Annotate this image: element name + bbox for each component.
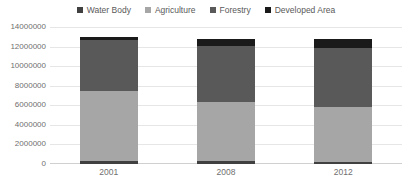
y-axis-tick-label: 4000000 bbox=[15, 121, 46, 129]
legend-swatch-icon bbox=[77, 7, 83, 13]
legend-item[interactable]: Agriculture bbox=[145, 6, 196, 15]
legend-item-label: Water Body bbox=[87, 6, 131, 15]
y-axis-tick-label: 0 bbox=[42, 160, 46, 168]
x-axis-tick-label: 2001 bbox=[99, 168, 118, 177]
bar-stack bbox=[80, 37, 138, 164]
legend-item-label: Developed Area bbox=[275, 6, 336, 15]
x-axis-labels: 200120082012 bbox=[50, 166, 402, 182]
y-axis-tick-label: 2000000 bbox=[15, 140, 46, 148]
x-axis-tick-label: 2012 bbox=[334, 168, 353, 177]
y-axis-tick-label: 14000000 bbox=[10, 23, 46, 31]
bar-segment[interactable] bbox=[80, 40, 138, 91]
y-axis-tick-label: 10000000 bbox=[10, 62, 46, 70]
bar-segment[interactable] bbox=[314, 107, 372, 162]
legend-swatch-icon bbox=[145, 7, 151, 13]
stacked-bar-chart: Water BodyAgricultureForestryDeveloped A… bbox=[0, 0, 412, 189]
bar-segment[interactable] bbox=[314, 48, 372, 107]
y-axis-labels: 1400000012000000100000008000000600000040… bbox=[0, 27, 46, 164]
bar-stack bbox=[314, 39, 372, 164]
bar-segment[interactable] bbox=[314, 162, 372, 164]
legend-swatch-icon bbox=[210, 7, 216, 13]
bar-segment[interactable] bbox=[197, 102, 255, 161]
bar-group[interactable] bbox=[80, 27, 138, 164]
bar-segment[interactable] bbox=[80, 161, 138, 164]
legend-item-label: Agriculture bbox=[155, 6, 196, 15]
x-axis-tick-label: 2008 bbox=[217, 168, 236, 177]
y-axis-tick-label: 12000000 bbox=[10, 43, 46, 51]
plot-area bbox=[50, 27, 402, 164]
bar-segment[interactable] bbox=[80, 91, 138, 161]
bar-segment[interactable] bbox=[314, 39, 372, 48]
bar-group[interactable] bbox=[314, 27, 372, 164]
legend-item-label: Forestry bbox=[220, 6, 251, 15]
bar-segment[interactable] bbox=[197, 39, 255, 46]
y-axis-tick-label: 6000000 bbox=[15, 101, 46, 109]
legend-item[interactable]: Forestry bbox=[210, 6, 251, 15]
bar-segment[interactable] bbox=[197, 161, 255, 164]
bar-group[interactable] bbox=[197, 27, 255, 164]
legend-swatch-icon bbox=[265, 7, 271, 13]
legend-item[interactable]: Water Body bbox=[77, 6, 131, 15]
bar-stack bbox=[197, 39, 255, 164]
bar-segment[interactable] bbox=[197, 46, 255, 102]
chart-legend: Water BodyAgricultureForestryDeveloped A… bbox=[0, 6, 412, 15]
y-axis-tick-label: 8000000 bbox=[15, 82, 46, 90]
legend-item[interactable]: Developed Area bbox=[265, 6, 336, 15]
